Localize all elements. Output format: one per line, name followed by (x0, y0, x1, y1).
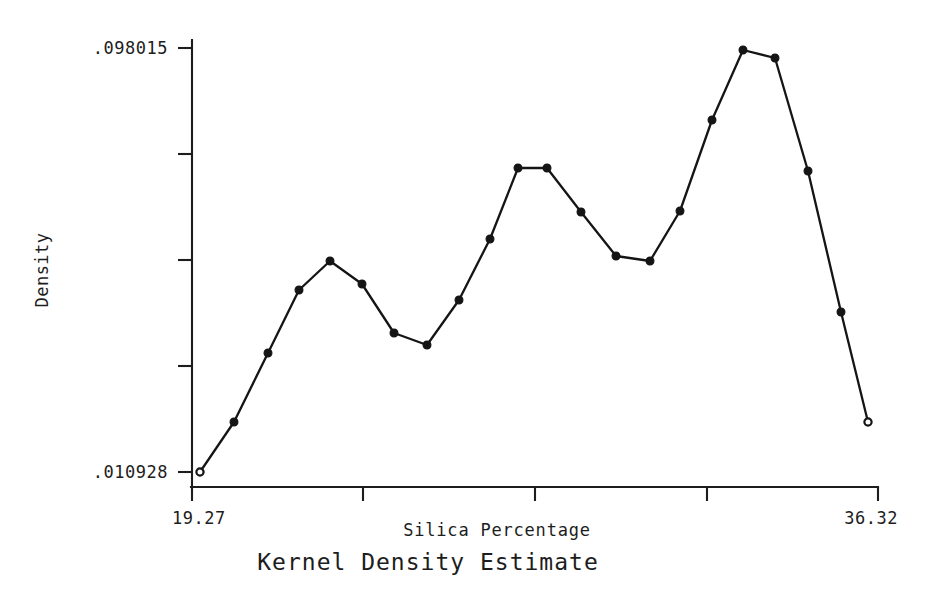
data-point-marker (390, 329, 398, 337)
data-point-marker (771, 54, 779, 62)
y-axis-max-tick-label: .098015 (93, 38, 168, 58)
data-point-marker (804, 167, 812, 175)
chart-title: Kernel Density Estimate (257, 549, 599, 575)
data-point-marker (326, 257, 334, 265)
data-point-marker (358, 280, 366, 288)
x-axis-title: Silica Percentage (403, 520, 591, 540)
data-point-marker (739, 46, 747, 54)
data-point-marker (676, 207, 684, 215)
data-point-marker (196, 468, 203, 475)
data-point-marker (486, 235, 494, 243)
data-point-marker (230, 418, 238, 426)
data-point-marker (514, 164, 522, 172)
data-point-marker (295, 286, 303, 294)
data-point-marker (543, 164, 551, 172)
data-point-marker (864, 418, 871, 425)
data-point-marker (646, 257, 654, 265)
data-point-marker (264, 349, 272, 357)
data-point-marker (612, 252, 620, 260)
x-axis-min-tick-label: 19.27 (172, 508, 226, 528)
y-axis-title: Density (32, 232, 52, 307)
data-point-marker (837, 308, 845, 316)
y-axis-min-tick-label: .010928 (93, 462, 168, 482)
x-axis-max-tick-label: 36.32 (844, 508, 898, 528)
data-point-marker (577, 208, 585, 216)
data-point-marker (708, 116, 716, 124)
kernel-density-chart: .098015 .010928 19.27 36.32 Density Sili… (0, 0, 926, 611)
data-point-marker (455, 296, 463, 304)
data-point-marker (423, 341, 431, 349)
